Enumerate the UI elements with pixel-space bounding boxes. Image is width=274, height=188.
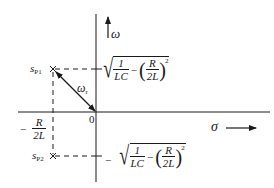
imag-lower-label: − √ 1LC − (R2L)2	[103, 143, 186, 169]
omega-r-vector	[56, 72, 95, 111]
real-part-label: − R2L	[18, 117, 46, 141]
pole-label-p2: sP2	[32, 150, 44, 161]
origin-label: 0	[89, 114, 95, 125]
imag-upper-label: √ 1LC − (R2L)2	[101, 56, 169, 82]
pole-label-p1: sP1	[30, 63, 42, 74]
omega-axis-label: ω	[111, 27, 120, 40]
sigma-axis-label: σ	[211, 120, 218, 134]
omega-r-label: ωr	[77, 82, 88, 94]
